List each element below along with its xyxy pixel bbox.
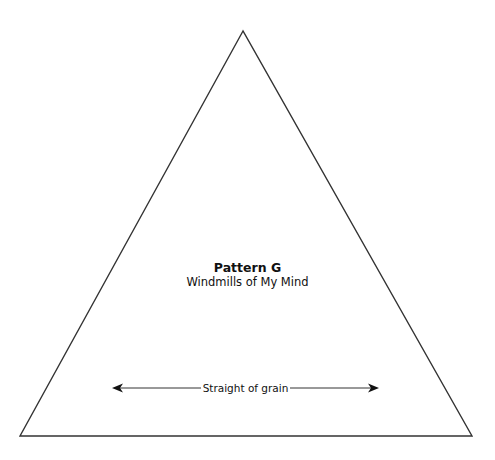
pattern-subtitle: Windmills of My Mind bbox=[0, 275, 495, 289]
pattern-title: Pattern G bbox=[0, 260, 495, 275]
grain-label: Straight of grain bbox=[201, 382, 291, 394]
triangle-pattern-piece bbox=[20, 31, 472, 436]
grain-label-container: Straight of grain bbox=[0, 381, 491, 395]
pattern-label: Pattern G Windmills of My Mind bbox=[0, 260, 495, 289]
